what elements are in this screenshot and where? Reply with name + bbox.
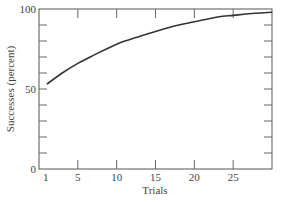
x-tick-label: 10 bbox=[111, 171, 123, 183]
y-tick-label: 100 bbox=[20, 3, 37, 15]
x-tick-label: 1 bbox=[43, 171, 49, 183]
x-tick-label: 15 bbox=[150, 171, 162, 183]
plot-frame bbox=[39, 9, 272, 169]
y-axis-label: Successes (percent) bbox=[4, 45, 17, 132]
x-tick-label: 5 bbox=[75, 171, 81, 183]
plot-area: 0501001510152025 bbox=[20, 3, 273, 183]
chart: 0501001510152025 Successes (percent) Tri… bbox=[0, 0, 300, 202]
x-axis-label: Trials bbox=[142, 184, 167, 196]
x-tick-label: 25 bbox=[228, 171, 240, 183]
learning-curve-line bbox=[47, 12, 272, 84]
y-tick-label: 0 bbox=[31, 163, 37, 175]
y-tick-label: 50 bbox=[25, 83, 37, 95]
x-tick-label: 20 bbox=[189, 171, 201, 183]
